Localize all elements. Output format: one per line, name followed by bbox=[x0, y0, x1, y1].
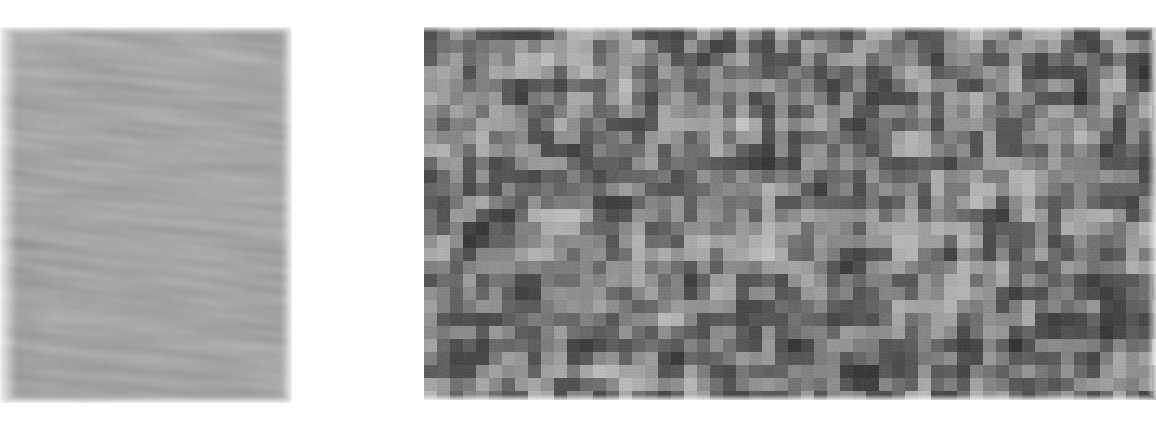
figure-root bbox=[0, 0, 1156, 428]
right-panel-canvas bbox=[424, 27, 1156, 400]
left-panel-canvas bbox=[0, 27, 292, 403]
right-panel bbox=[424, 27, 1156, 400]
white-separator bbox=[292, 0, 424, 428]
left-panel bbox=[0, 27, 292, 403]
